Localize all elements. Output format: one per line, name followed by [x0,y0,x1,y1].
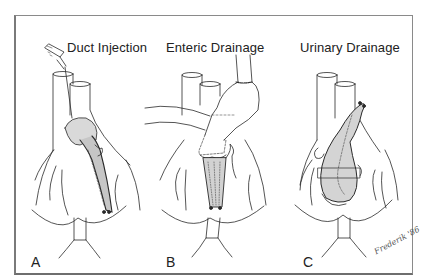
pelvis-a [32,150,140,258]
panel-a-illustration [32,44,140,258]
illustration-svg [0,0,425,279]
pancreas-graft-a [65,118,112,214]
panel-b-illustration [145,55,266,257]
pancreas-graft-c [314,102,365,206]
panel-c-illustration [295,73,398,258]
pancreas-graft-b [199,135,236,210]
bowel-loop [145,55,259,140]
syringe-icon [45,44,72,118]
